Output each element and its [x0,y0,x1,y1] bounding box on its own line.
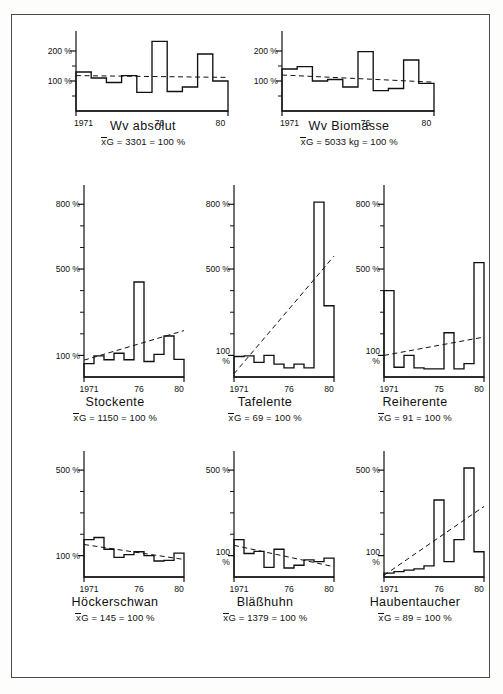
panel-mean-reiherente: xG = 91 = 100 % [340,412,490,423]
y-tick-label: 500 % [206,264,231,274]
panel-stockente: 100 %500 %800 %19717680 Stockente xG = 1… [40,183,190,398]
panel-title-stockente: Stockente [40,395,190,409]
figure-frame: 100 %200 %19717680 Wv absolut xG = 3301 … [11,14,490,678]
panel-title-reiherente: Reiherente [340,395,490,409]
panel-mean-wv-absolut: xG = 3301 = 100 % [48,136,238,147]
y-tick-label: 800 % [206,199,231,209]
x-tick-label: 1971 [379,384,398,394]
y-tick-label: % [222,356,230,366]
step-series [384,263,484,377]
x-tick-label: 80 [324,384,334,394]
x-tick-label: 1971 [379,584,398,594]
y-tick-label: 100 [366,346,381,356]
step-series [384,468,484,577]
x-tick-label: 76 [434,584,444,594]
x-tick-label: 1971 [79,384,98,394]
panel-title-tafelente: Tafelente [190,395,340,409]
y-tick-label: 500 % [356,264,381,274]
panel-haubentaucher: 100%500 %19717680 Haubentaucher xG = 89 … [340,447,490,597]
y-tick-label: 100 % [56,551,81,561]
panel-mean-text-haubentaucher: G = 89 = 100 % [384,612,452,623]
step-series [234,540,334,577]
panel-tafelente: 100%500 %800 %19717680 Tafelente xG = 69… [190,183,340,398]
y-tick-label: 100 [216,547,231,557]
panel-blaesshuhn: 100%500 %19717680 Bläßhuhn xG = 1379 = 1… [190,447,340,597]
chart-tafelente: 100%500 %800 %19717680 [190,183,340,398]
chart-blaesshuhn: 100%500 %19717680 [190,447,340,597]
panel-mean-text-wv-absolut: G = 3301 = 100 % [107,136,186,147]
panel-mean-haubentaucher: xG = 89 = 100 % [340,612,490,623]
panel-mean-text-stockente: G = 1150 = 100 % [79,412,157,423]
panel-wv-biomasse: 100 %200 %19717680 Wv Biomasse xG = 5033… [254,29,444,134]
y-tick-label: 100 % [56,351,81,361]
panel-hoeckerschwan: 100 %500 %19717680 Höckerschwan xG = 145… [40,447,190,597]
y-tick-label: 100 [216,346,231,356]
step-series [76,41,228,111]
chart-hoeckerschwan: 100 %500 %19717680 [40,447,190,597]
panel-mean-tafelente: xG = 69 = 100 % [190,412,340,423]
x-tick-label: 76 [284,384,294,394]
panel-mean-wv-biomasse: xG = 5033 kg = 100 % [254,136,444,147]
y-tick-label: 200 % [48,46,73,56]
x-tick-label: 80 [474,584,484,594]
panel-mean-text-reiherente: G = 91 = 100 % [384,412,452,423]
y-tick-label: 100 % [254,76,279,86]
panel-wv-absolut: 100 %200 %19717680 Wv absolut xG = 3301 … [48,29,238,134]
x-tick-label: 76 [284,584,294,594]
panel-mean-stockente: xG = 1150 = 100 % [40,412,190,423]
x-tick-label: 80 [324,584,334,594]
step-series [234,202,334,377]
panel-title-wv-absolut: Wv absolut [48,119,238,133]
y-tick-label: 500 % [206,465,231,475]
y-tick-label: 500 % [56,264,81,274]
x-tick-label: 1971 [229,584,248,594]
step-series [84,282,184,377]
chart-reiherente: 100%500 %800 %19717580 [340,183,490,398]
x-tick-label: 1971 [229,384,248,394]
panel-title-wv-biomasse: Wv Biomasse [254,119,444,133]
panel-mean-text-wv-biomasse: G = 5033 kg = 100 % [306,136,398,147]
x-tick-label: 80 [474,384,484,394]
x-tick-label: 76 [134,584,144,594]
x-tick-label: 75 [434,384,444,394]
panel-reiherente: 100%500 %800 %19717580 Reiherente xG = 9… [340,183,490,398]
panel-title-hoeckerschwan: Höckerschwan [40,595,190,609]
panel-mean-hoeckerschwan: xG = 145 = 100 % [40,612,190,623]
y-tick-label: 500 % [56,465,81,475]
chart-haubentaucher: 100%500 %19717680 [340,447,490,597]
y-tick-label: 100 [366,547,381,557]
y-tick-label: 800 % [56,199,81,209]
panel-mean-text-blaesshuhn: G = 1379 = 100 % [229,612,308,623]
panel-title-haubentaucher: Haubentaucher [340,595,490,609]
y-tick-label: % [222,557,230,567]
y-tick-label: % [372,557,380,567]
y-tick-label: 500 % [356,465,381,475]
x-tick-label: 1971 [79,584,98,594]
x-tick-label: 80 [174,384,184,394]
panel-mean-text-tafelente: G = 69 = 100 % [234,412,302,423]
panel-mean-blaesshuhn: xG = 1379 = 100 % [190,612,340,623]
chart-stockente: 100 %500 %800 %19717680 [40,183,190,398]
y-tick-label: 200 % [254,46,279,56]
panel-title-blaesshuhn: Bläßhuhn [190,595,340,609]
x-tick-label: 80 [174,584,184,594]
y-tick-label: 100 % [48,76,73,86]
panel-mean-text-hoeckerschwan: G = 145 = 100 % [81,612,154,623]
x-tick-label: 76 [134,384,144,394]
y-tick-label: % [372,356,380,366]
trend-line [384,337,484,355]
y-tick-label: 800 % [356,199,381,209]
